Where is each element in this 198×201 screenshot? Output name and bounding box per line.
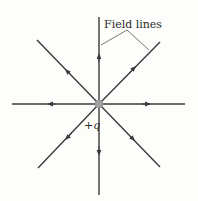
arrow-down-right-icon xyxy=(128,134,133,139)
label-pointer xyxy=(101,30,149,50)
arrow-down-left-icon xyxy=(67,133,72,138)
field-diagram xyxy=(0,0,198,201)
arrow-up-left-icon xyxy=(67,71,72,76)
field-lines-label: Field lines xyxy=(104,18,162,31)
arrow-up-right-icon xyxy=(129,68,134,73)
charge-label: +q xyxy=(84,119,100,132)
point-charge xyxy=(95,100,103,108)
